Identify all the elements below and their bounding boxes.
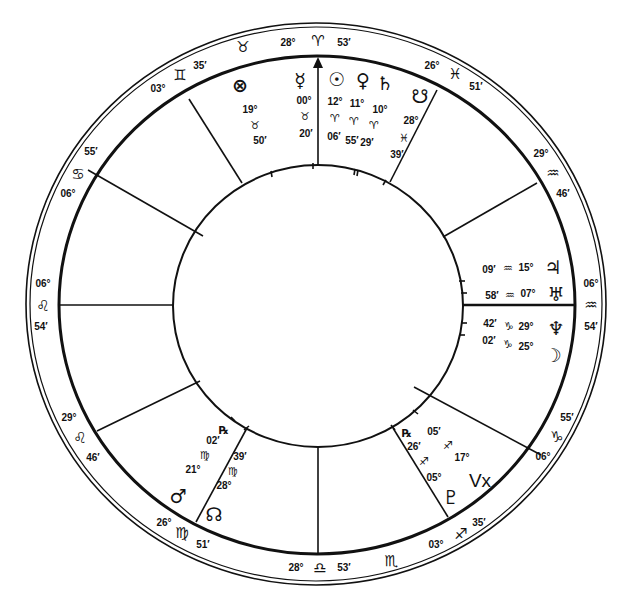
moon-icon: ☽: [544, 346, 561, 365]
mercury-deg: 00°: [296, 96, 311, 106]
pluto-icon: ♇: [442, 488, 459, 507]
planet-ticks: [231, 163, 467, 430]
cusp-12-deg: 29°: [533, 149, 548, 159]
jupiter-deg: 15°: [518, 263, 533, 273]
house-cusp-lines: [59, 64, 575, 554]
cusp-ic-deg: 28°: [288, 563, 303, 573]
cusp-6-deg: 29°: [61, 413, 76, 423]
neptune-sign-icon: ♑: [504, 321, 514, 332]
leo-icon: ♌: [73, 431, 86, 446]
cusp-desc-min: 54′: [34, 322, 48, 332]
saturn-icon: ♄: [376, 74, 393, 93]
south-node-min: 39′: [390, 150, 404, 160]
mars-deg: 21°: [185, 465, 200, 475]
pof-sign-icon: ♉: [250, 120, 260, 131]
jupiter-icon: ♃: [544, 258, 561, 277]
pisces-icon: ♓: [448, 67, 461, 82]
cusp-2-line: [414, 387, 541, 455]
cusp-6-line: [97, 381, 200, 431]
moon-deg: 25°: [518, 342, 533, 352]
south-node-sign-icon: ♓: [399, 133, 409, 144]
neptune-icon: ♆: [547, 319, 564, 338]
vertex-sign-icon: ♐: [443, 440, 453, 451]
aquarius-icon: ♒: [546, 166, 559, 181]
venus-deg: 11°: [350, 99, 365, 109]
neptune-min: 42′: [483, 319, 497, 329]
cusp-12-line: [443, 183, 537, 237]
uranus-min: 58′: [485, 291, 499, 301]
cusp-9-line: [189, 99, 242, 183]
cusp-asc-deg: 06°: [583, 279, 598, 289]
vertex-deg: 17°: [454, 453, 469, 463]
cancer-icon: ♋: [71, 167, 84, 182]
cusp-5-min: 51′: [196, 540, 210, 550]
mars-min: 02′: [206, 436, 220, 446]
vertex-icon: Vx: [469, 471, 491, 490]
mercury-icon: ☿: [294, 71, 306, 90]
cusp-mc-min: 53′: [337, 38, 351, 48]
capricorn-icon: ♑: [550, 430, 563, 445]
leo-desc-icon: ♌: [36, 299, 49, 314]
cusp-8-line: [88, 170, 203, 236]
mars-icon: ♂: [169, 487, 186, 506]
cusp-mc-deg: 28°: [280, 38, 295, 48]
cusp-9-deg: 03°: [150, 84, 165, 94]
moon-sign-icon: ♑: [503, 339, 513, 350]
chart-wheel: [0, 0, 626, 601]
venus-min: 55′: [345, 136, 359, 146]
south-node-icon: ☋: [412, 87, 429, 106]
vertex-min: 05′: [427, 427, 441, 437]
mercury-sign-icon: ♉: [300, 111, 310, 122]
venus-icon: ♀: [356, 71, 370, 90]
venus-sign-icon: ♈: [349, 116, 359, 127]
north-node-deg: 28°: [216, 481, 231, 491]
cusp-8-deg: 06°: [60, 189, 75, 199]
north-node-icon: ☊: [206, 505, 223, 524]
sagittarius-icon: ♐: [454, 527, 467, 542]
north-node-min: 39′: [233, 452, 247, 462]
sun-sign-icon: ♈: [330, 113, 340, 124]
saturn-deg: 10°: [372, 105, 387, 115]
cusp-asc-min: 54′: [584, 322, 598, 332]
saturn-sign-icon: ♈: [369, 120, 379, 131]
uranus-deg: 07°: [520, 289, 535, 299]
north-node-sign-icon: ♍: [228, 466, 238, 477]
center-circle: [173, 165, 463, 447]
mars-sign-icon: ♍: [200, 450, 210, 461]
cusp-11-min: 51′: [469, 82, 483, 92]
moon-min: 02′: [482, 336, 496, 346]
cusp-3-min: 35′: [472, 518, 486, 528]
pof-min: 50′: [253, 136, 267, 146]
cusp-12-min: 46′: [556, 189, 570, 199]
aquarius-asc-icon: ♒: [584, 298, 597, 313]
mercury-min: 20′: [299, 129, 313, 139]
cusp-2-deg: 06°: [535, 452, 550, 462]
taurus-intercepted-icon: ♉: [236, 40, 249, 55]
cusp-3-deg: 03°: [428, 540, 443, 550]
cusp-desc-deg: 06°: [35, 279, 50, 289]
pluto-sign-icon: ♐: [419, 456, 429, 467]
cusp-2-min: 55′: [560, 413, 574, 423]
south-node-deg: 28°: [403, 116, 418, 126]
uranus-icon: ♅: [547, 285, 564, 304]
cusp-11-deg: 26°: [424, 61, 439, 71]
mars-retrograde-icon: ℞: [219, 425, 229, 436]
sun-deg: 12°: [327, 97, 342, 107]
libra-icon: ♎: [313, 561, 326, 576]
jupiter-min: 09′: [482, 265, 496, 275]
pluto-retrograde-icon: ℞: [402, 428, 412, 439]
sun-icon: ☉: [328, 70, 345, 89]
jupiter-sign-icon: ♒: [503, 263, 513, 274]
virgo-icon: ♍: [175, 526, 188, 541]
cusp-5-deg: 26°: [156, 518, 171, 528]
pluto-min: 26′: [407, 442, 421, 452]
neptune-deg: 29°: [518, 322, 533, 332]
mc-arrow-icon: [313, 57, 323, 68]
sun-min: 06′: [327, 132, 341, 142]
uranus-sign-icon: ♒: [505, 290, 515, 301]
part-of-fortune-icon: ⊗: [232, 76, 248, 95]
cusp-9-min: 35′: [193, 61, 207, 71]
cusp-ic-min: 53′: [337, 563, 351, 573]
scorpio-intercepted-icon: ♏: [384, 554, 397, 569]
gemini-icon: ♊: [173, 68, 186, 83]
